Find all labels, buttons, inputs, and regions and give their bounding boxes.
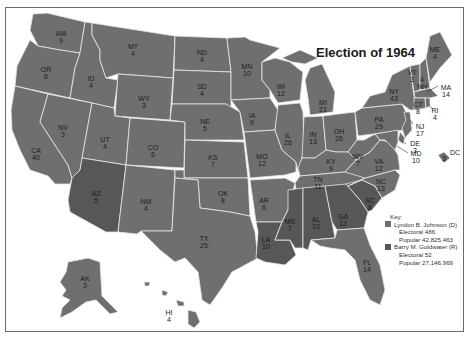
label-nm: NM4 [141, 198, 152, 212]
label-ar: AR6 [259, 197, 269, 211]
legend-johnson-electoral: Electoral 486 [385, 228, 458, 236]
label-sd: SD4 [197, 83, 207, 97]
label-ok: OK8 [218, 190, 228, 204]
label-va: VA12 [375, 158, 384, 172]
map-title: Election of 1964 [316, 45, 415, 60]
legend-heading: Key: [385, 213, 458, 221]
label-sc: SC8 [365, 197, 375, 211]
label-or: OR6 [41, 66, 52, 80]
label-al: AL10 [312, 216, 321, 230]
label-in: IN13 [309, 131, 317, 145]
state-fl [311, 228, 385, 305]
label-ms: MS7 [285, 218, 296, 232]
legend-goldwater-electoral: Electoral 52 [385, 251, 458, 259]
label-fl: FL14 [363, 259, 371, 273]
state-co [126, 118, 185, 168]
label-ny: NY43 [389, 88, 399, 102]
label-vt: VT3 [408, 69, 417, 83]
goldwater-swatch [385, 244, 391, 250]
label-mi: MI21 [319, 99, 327, 113]
label-ne: NE5 [200, 118, 210, 132]
label-ia: IA9 [249, 112, 256, 126]
label-wv: WV7 [352, 153, 363, 167]
state-hi-maui [176, 300, 184, 306]
label-ct: CT8 [413, 101, 422, 115]
label-id: ID4 [88, 75, 95, 89]
label-nh: 4NH [417, 76, 427, 90]
label-ky: KY9 [326, 158, 335, 172]
map-legend: Key: Lyndon B. Johnson (D) Electoral 486… [385, 213, 458, 266]
state-hi-big [188, 310, 200, 328]
md-leader-line [397, 146, 408, 153]
label-nv: NV3 [58, 124, 68, 138]
state-ri [425, 98, 430, 108]
label-me: ME4 [430, 46, 441, 60]
label-wa: WA9 [55, 30, 66, 44]
legend-goldwater-popular: Popular 27,146,969 [385, 259, 458, 267]
label-ut: UT4 [100, 136, 109, 150]
label-ks: KS7 [208, 154, 217, 168]
label-mo: MO12 [256, 153, 267, 167]
label-mt: MT4 [128, 43, 138, 57]
label-wi: WI12 [277, 83, 286, 97]
label-ak: AK3 [80, 275, 89, 289]
legend-johnson-popular: Popular 42,825,463 [385, 236, 458, 244]
label-nj: NJ17 [416, 123, 425, 137]
label-ca: CA40 [31, 147, 41, 161]
label-az: AZ5 [92, 190, 101, 204]
label-la: LA10 [262, 236, 271, 250]
legend-goldwater-name: Barry M. Goldwater (R) [394, 243, 458, 251]
label-ga: GA12 [338, 213, 348, 227]
label-nd: ND4 [197, 49, 207, 63]
label-pa: PA29 [375, 116, 384, 130]
label-oh: OH26 [334, 128, 345, 142]
label-tx: TX25 [200, 235, 209, 249]
label-hi: HI4 [166, 309, 173, 323]
label-dc-votes: 3 [442, 155, 446, 162]
johnson-swatch [385, 221, 391, 227]
legend-item-johnson: Lyndon B. Johnson (D) [385, 221, 458, 229]
label-co: CO6 [148, 144, 159, 158]
label-tn: TN11 [313, 176, 322, 190]
label-wy: WY3 [138, 95, 149, 109]
state-hi-oahu [162, 290, 168, 296]
state-hi-kauai [144, 282, 150, 286]
label-il: IL26 [284, 132, 292, 146]
legend-item-goldwater: Barry M. Goldwater (R) [385, 243, 458, 251]
label-dc: DC [450, 149, 460, 156]
label-mn: MN10 [242, 63, 253, 77]
legend-johnson-name: Lyndon B. Johnson (D) [394, 221, 457, 229]
label-nc: NC13 [376, 178, 386, 192]
label-ma: MA14 [441, 84, 452, 98]
label-ri: RI4 [432, 107, 439, 121]
label-md: MD10 [411, 150, 422, 164]
